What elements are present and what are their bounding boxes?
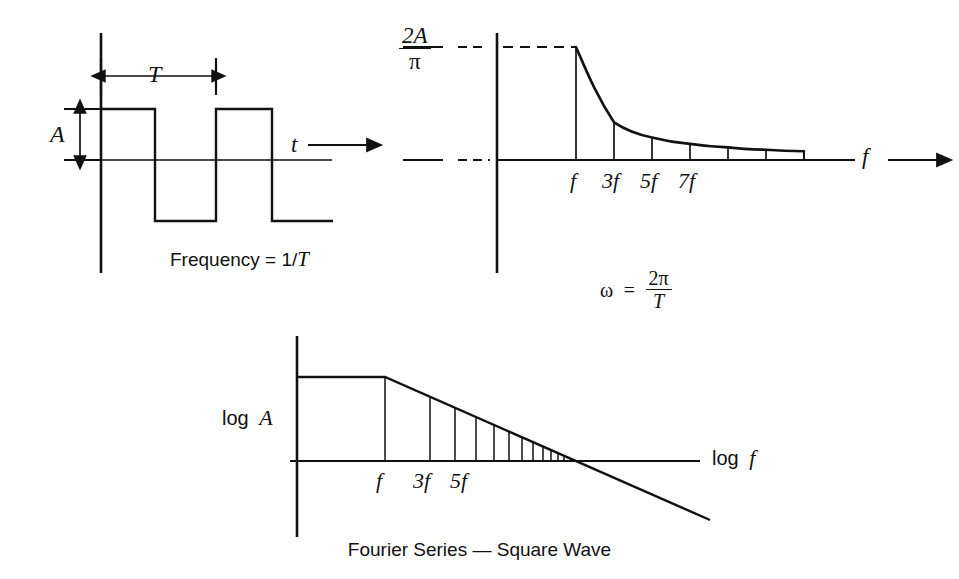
- log-tick-label-3f: 3f: [413, 470, 430, 492]
- frequency-note-prefix: Frequency = 1/: [170, 249, 297, 270]
- figure-caption: Fourier Series — Square Wave: [0, 540, 959, 559]
- log-y-axis-label-var: A: [254, 405, 272, 430]
- square-wave-trace: [101, 109, 333, 221]
- log-tick-label-f: f: [376, 470, 382, 492]
- log-y-axis-label: log A: [222, 407, 273, 429]
- log-x-axis-label-prefix: log: [712, 447, 739, 469]
- omega-symbol: ω: [600, 279, 613, 301]
- peak-level-label: 2A π: [399, 24, 431, 73]
- spectrum-envelope: [576, 47, 804, 151]
- omega-formula: ω = 2π T: [600, 268, 672, 311]
- frequency-note-var: T: [297, 247, 309, 271]
- time-domain-panel: [64, 33, 368, 273]
- spectrum-tick-label-5f: 5f: [640, 170, 657, 192]
- figure-drawing: [0, 0, 959, 579]
- spectrum-tick-label-f: f: [570, 170, 576, 192]
- omega-equals: =: [619, 279, 640, 301]
- t-axis-label: t: [291, 133, 297, 156]
- omega-numerator: 2π: [646, 268, 672, 288]
- omega-denominator: T: [646, 291, 672, 311]
- period-label: T: [148, 62, 161, 86]
- log-envelope-trace: [297, 377, 710, 520]
- frequency-note: Frequency = 1/T: [170, 249, 309, 270]
- spectrum-panel: [403, 33, 938, 273]
- peak-denominator: π: [399, 50, 431, 73]
- log-x-axis-label-var: f: [744, 445, 755, 470]
- fourier-series-figure: A T t Frequency = 1/T 2A π f 3f 5f 7f f …: [0, 0, 959, 579]
- peak-numerator: 2A: [399, 24, 431, 47]
- spectrum-tick-label-3f: 3f: [602, 170, 619, 192]
- log-tick-label-5f: 5f: [450, 470, 467, 492]
- f-axis-label: f: [862, 145, 868, 168]
- amplitude-label: A: [50, 122, 65, 146]
- log-y-axis-label-prefix: log: [222, 407, 249, 429]
- spectrum-tick-label-7f: 7f: [678, 170, 695, 192]
- log-log-panel: [290, 336, 710, 537]
- log-x-axis-label: log f: [712, 447, 755, 469]
